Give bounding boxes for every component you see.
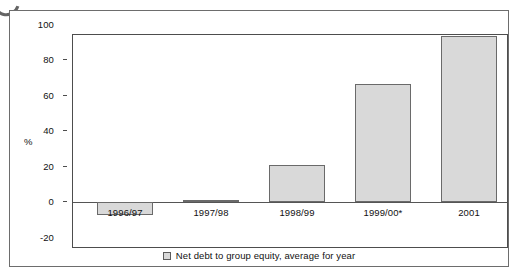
bar-1997-98[interactable] — [183, 200, 239, 202]
y-axis-tick-mark-40 — [63, 130, 67, 131]
x-axis-label-1998-99: 1998/99 — [279, 207, 314, 218]
chart-legend: Net debt to group equity, average for ye… — [10, 250, 508, 261]
bar-1998-99[interactable] — [269, 165, 325, 202]
y-axis-tick-label-100: 100 — [20, 19, 54, 30]
y-axis-tick-label-80: 80 — [20, 54, 54, 65]
legend-label-net-debt: Net debt to group equity, average for ye… — [176, 250, 355, 261]
y-axis-tick-label-minus20: -20 — [20, 232, 54, 243]
x-axis-label-1997-98: 1997/98 — [193, 207, 228, 218]
y-axis-tick-mark-0 — [63, 201, 67, 202]
y-axis-tick-label-20: 20 — [20, 161, 54, 172]
y-axis-tick-mark-60 — [63, 95, 67, 96]
legend-swatch-icon — [163, 252, 171, 260]
y-axis-tick-mark-20 — [63, 166, 67, 167]
chart-figure: % 100 80 60 40 20 0 -20 — [0, 0, 519, 278]
bar-1999-00[interactable] — [355, 84, 411, 202]
figure-border: % 100 80 60 40 20 0 -20 — [9, 10, 509, 267]
y-axis-tick-label-40: 40 — [20, 125, 54, 136]
y-axis-tick-label-60: 60 — [20, 90, 54, 101]
y-axis-tick-mark-80 — [63, 59, 67, 60]
y-axis-tick-label-0: 0 — [20, 196, 54, 207]
x-axis-label-2001: 2001 — [458, 207, 480, 218]
plot-inner: 1996/97 1997/98 1998/99 1999/00* 2001 — [73, 35, 507, 247]
x-axis-label-1999-00: 1999/00* — [364, 207, 403, 218]
x-axis-label-1996-97: 1996/97 — [107, 207, 142, 218]
y-axis-title: % — [24, 136, 32, 147]
bar-2001[interactable] — [441, 36, 497, 202]
plot-area: 1996/97 1997/98 1998/99 1999/00* 2001 — [72, 34, 508, 248]
